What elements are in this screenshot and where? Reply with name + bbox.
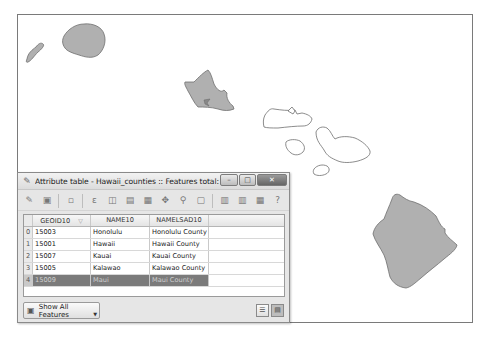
- row-index[interactable]: 2: [24, 251, 33, 262]
- qgis-screen: ✎ Attribute table - Hawaii_counties :: F…: [0, 0, 492, 340]
- island-lanai[interactable]: [286, 140, 305, 155]
- expression-select-icon[interactable]: ε: [88, 194, 101, 207]
- move-selection-top-icon[interactable]: ▤: [124, 194, 137, 207]
- island-maui[interactable]: [316, 127, 370, 162]
- window-controls: – □ ✕: [220, 174, 287, 186]
- attribute-toolbar: ✎ ▣ ▫ ε ◫ ▤ ▦ ✥ ⚲ ▢ ▥ ▥ ▦ ?: [18, 191, 289, 211]
- field-calculator-icon[interactable]: ▦: [254, 194, 267, 207]
- cell-name10[interactable]: Maui: [91, 275, 150, 286]
- island-molokai[interactable]: [263, 109, 312, 128]
- table-view-icon[interactable]: ☰: [256, 304, 269, 317]
- window-titlebar[interactable]: ✎ Attribute table - Hawaii_counties :: F…: [18, 173, 289, 190]
- maximize-button[interactable]: □: [239, 174, 256, 186]
- toolbar-separator: [58, 194, 59, 208]
- cell-name10[interactable]: Kalawao: [91, 263, 150, 274]
- cell-namelsad10[interactable]: Honolulu County: [150, 227, 209, 238]
- dropdown-arrow-icon: ▼: [93, 311, 97, 317]
- cell-namelsad10[interactable]: Hawaii County: [150, 239, 209, 250]
- cell-geoid10[interactable]: 15003: [33, 227, 91, 238]
- attribute-table-window[interactable]: ✎ Attribute table - Hawaii_counties :: F…: [17, 172, 290, 323]
- table-row[interactable]: 3 15005 Kalawao Kalawao County: [24, 263, 284, 275]
- table-row-selected[interactable]: 4 15009 Maui Maui County: [24, 275, 284, 287]
- grid-header: GEOID10▽ NAME10 NAMELSAD10: [24, 215, 284, 227]
- copy-selected-icon[interactable]: ▢: [194, 194, 207, 207]
- zoom-to-selected-icon[interactable]: ⚲: [177, 194, 190, 207]
- cell-name10[interactable]: Kauai: [91, 251, 150, 262]
- deselect-all-icon[interactable]: ◫: [106, 194, 119, 207]
- cell-geoid10[interactable]: 15005: [33, 263, 91, 274]
- pan-to-selected-icon[interactable]: ✥: [159, 194, 172, 207]
- attribute-grid[interactable]: GEOID10▽ NAME10 NAMELSAD10 0 15003 Honol…: [23, 214, 285, 297]
- row-index[interactable]: 0: [24, 227, 33, 238]
- toolbar-separator: [212, 194, 213, 208]
- table-row[interactable]: 2 15007 Kauai Kauai County: [24, 251, 284, 263]
- cell-geoid10[interactable]: 15001: [33, 239, 91, 250]
- delete-column-icon[interactable]: ▥: [236, 194, 249, 207]
- minimize-button[interactable]: –: [220, 174, 238, 186]
- row-index[interactable]: 4: [24, 275, 33, 286]
- new-column-icon[interactable]: ▥: [218, 194, 231, 207]
- column-header-geoid10[interactable]: GEOID10▽: [33, 215, 91, 226]
- column-header-name10[interactable]: NAME10: [91, 215, 150, 226]
- island-kauai[interactable]: [63, 24, 105, 57]
- island-kahoolawe[interactable]: [313, 165, 329, 176]
- invert-selection-icon[interactable]: ▦: [141, 194, 154, 207]
- row-index[interactable]: 3: [24, 263, 33, 274]
- show-all-features-button[interactable]: ▣ Show All Features ▼: [23, 302, 100, 319]
- pencil-table-icon: ✎: [22, 176, 32, 186]
- close-button[interactable]: ✕: [257, 174, 287, 186]
- show-all-features-label: Show All Features: [39, 303, 99, 319]
- delete-selected-icon[interactable]: ▫: [64, 194, 77, 207]
- cell-geoid10[interactable]: 15007: [33, 251, 91, 262]
- sort-indicator-icon: ▽: [78, 217, 83, 224]
- island-oahu[interactable]: [185, 70, 234, 111]
- cell-namelsad10[interactable]: Maui County: [150, 275, 209, 286]
- form-view-icon[interactable]: ▤: [271, 304, 284, 317]
- island-niihau[interactable]: [26, 43, 43, 62]
- cell-namelsad10[interactable]: Kauai County: [150, 251, 209, 262]
- row-index[interactable]: 1: [24, 239, 33, 250]
- save-edits-icon[interactable]: ▣: [41, 194, 54, 207]
- cell-name10[interactable]: Honolulu: [91, 227, 150, 238]
- cell-namelsad10[interactable]: Kalawao County: [150, 263, 209, 274]
- toolbar-separator: [82, 194, 83, 208]
- column-header-namelsad10[interactable]: NAMELSAD10: [150, 215, 209, 226]
- table-row[interactable]: 1 15001 Hawaii Hawaii County: [24, 239, 284, 251]
- cell-name10[interactable]: Hawaii: [91, 239, 150, 250]
- help-icon[interactable]: ?: [271, 194, 284, 207]
- island-hawaii[interactable]: [373, 194, 457, 288]
- attribute-footer: ▣ Show All Features ▼ ☰ ▤: [18, 300, 289, 322]
- table-row[interactable]: 0 15003 Honolulu Honolulu County: [24, 227, 284, 239]
- window-title: Attribute table - Hawaii_counties :: Fea…: [35, 177, 221, 186]
- corner-cell[interactable]: [24, 215, 33, 226]
- filter-icon: ▣: [27, 306, 36, 315]
- toggle-editing-icon[interactable]: ✎: [23, 194, 36, 207]
- cell-geoid10[interactable]: 15009: [33, 275, 91, 286]
